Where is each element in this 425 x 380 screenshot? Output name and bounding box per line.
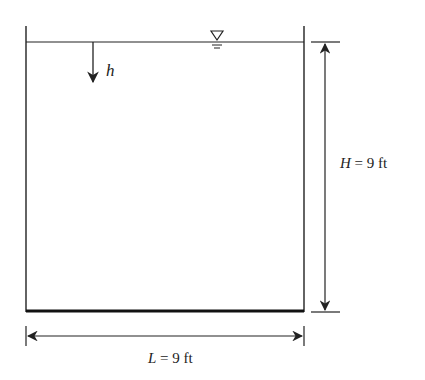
free-surface-triangle-icon xyxy=(211,31,223,48)
length-label: L = 9 ft xyxy=(147,350,194,366)
depth-label: h xyxy=(106,61,115,80)
height-label: H = 9 ft xyxy=(339,155,388,171)
tank-diagram: h H = 9 ft L = 9 ft xyxy=(0,0,425,380)
